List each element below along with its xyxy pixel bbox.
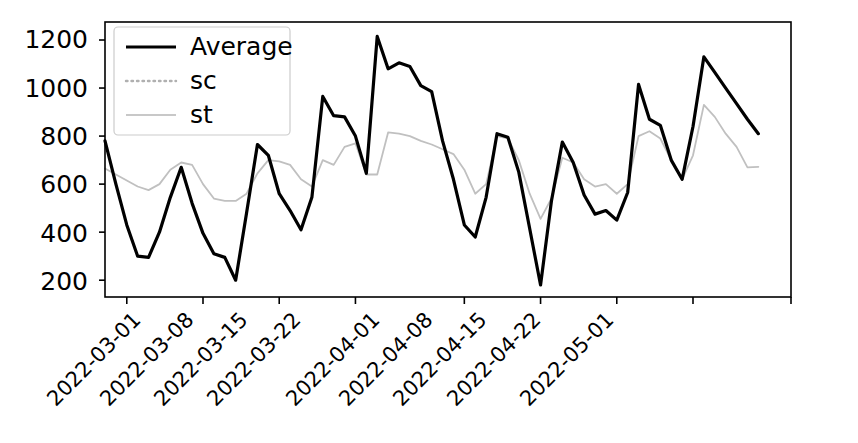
ytick-label-200: 200 [0,269,88,294]
ytick-label-400: 400 [0,221,88,246]
ytick-label-600: 600 [0,172,88,197]
legend-label-st: st [190,102,213,127]
ytick-label-1200: 1200 [0,27,88,52]
chart-figure: Average sc st 1200 1000 800 600 400 200 … [0,0,858,443]
legend-label-average: Average [190,34,293,59]
ytick-label-800: 800 [0,124,88,149]
legend-label-sc: sc [190,68,217,93]
ytick-label-1000: 1000 [0,76,88,101]
